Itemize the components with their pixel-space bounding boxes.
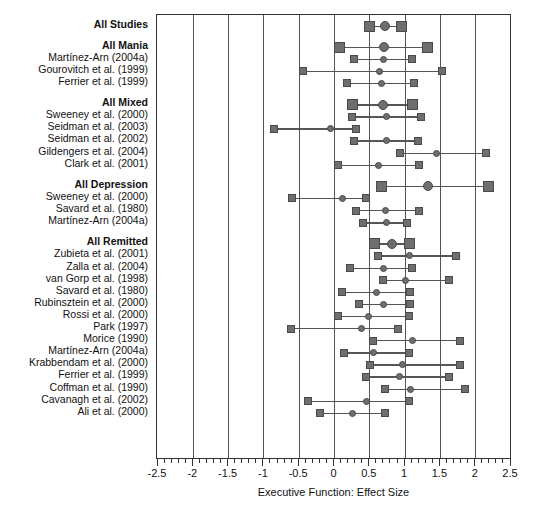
forest-row [157,135,510,147]
ci-lower-marker [288,194,296,202]
study-label: Rubinsztein et al. (2000) [34,297,148,308]
effect-size-marker [380,56,387,63]
study-label: Clark et al. (2001) [65,158,148,169]
axis-tick-label: -1.5 [218,467,237,479]
axis-tick-minor [488,459,489,463]
study-label: Zalla et al. (2004) [66,261,148,272]
axis-tick-minor [277,459,278,463]
forest-row [157,77,510,89]
forest-row [157,250,510,262]
ci-lower-marker [334,42,345,53]
axis-tick-minor [389,459,390,463]
ci-upper-marker [415,161,423,169]
ci-lower-marker [376,181,387,192]
study-label: Park (1997) [93,321,148,332]
study-label: Savard et al. (1980) [56,203,148,214]
effect-size-marker [379,42,389,52]
axis-tick-major [439,459,440,466]
group-label: All Studies [94,19,148,30]
axis-tick-minor [206,459,207,463]
axis-tick-label: -2.5 [148,467,167,479]
ci-upper-marker [445,373,453,381]
ci-lower-marker [316,409,324,417]
forest-row [157,371,510,383]
study-label: Ali et al. (2000) [77,406,148,417]
ci-upper-marker [408,55,416,63]
ci-upper-marker [452,252,460,260]
effect-size-marker [373,289,380,296]
forest-row [157,286,510,298]
axis-tick-minor [425,459,426,463]
ci-lower-marker [362,373,370,381]
ci-lower-marker [369,337,377,345]
ci-upper-marker [456,361,464,369]
axis-tick-major [474,459,475,466]
effect-size-marker [380,21,390,31]
confidence-interval-line [366,376,449,377]
study-label-column: All StudiesAll ManiaMartínez-Arn (2004a)… [0,0,152,470]
confidence-interval-line [274,128,355,129]
effect-size-marker [423,181,433,191]
ci-lower-marker [366,361,374,369]
axis-tick-major [510,459,511,466]
forest-row [157,274,510,286]
study-label: Rossi et al. (2000) [63,309,148,320]
ci-lower-marker [350,55,358,63]
study-label: Sweeney et al. (2000) [46,191,148,202]
effect-size-marker [327,125,334,132]
axis-tick-major [157,459,158,466]
forest-row [157,347,510,359]
x-axis: Executive Function: Effect Size -2.5-2-1… [156,459,511,519]
forest-row [157,159,510,171]
effect-size-marker [383,137,390,144]
confidence-interval-line [338,316,409,317]
axis-tick-minor [375,459,376,463]
forest-row [157,180,510,192]
ci-upper-marker [438,67,446,75]
axis-tick-minor [467,459,468,463]
axis-tick-minor [411,459,412,463]
axis-tick-minor [178,459,179,463]
axis-tick-label: 2 [472,467,478,479]
confidence-interval-line [400,153,486,154]
axis-tick-minor [453,459,454,463]
ci-upper-marker [394,325,402,333]
ci-upper-marker [381,409,389,417]
effect-size-marker [380,265,387,272]
study-label: Sweeney et al. (2000) [46,109,148,120]
study-label: Cavanagh et al. (2002) [41,394,148,405]
axis-tick-minor [354,459,355,463]
axis-tick-minor [248,459,249,463]
ci-upper-marker [422,42,433,53]
ci-upper-marker [405,312,413,320]
axis-tick-label: -1 [258,467,268,479]
study-label: Martínez-Arn (2004a) [48,52,148,63]
axis-tick-minor [269,459,270,463]
study-label: Ferrier et al. (1999) [58,76,148,87]
effect-size-marker [365,313,372,320]
axis-tick-minor [171,459,172,463]
effect-size-marker [407,386,414,393]
study-label: Gildengers et al. (2004) [38,146,148,157]
axis-tick-minor [319,459,320,463]
axis-tick-label: -2 [187,467,197,479]
axis-tick-minor [234,459,235,463]
group-label: All Remitted [87,236,148,247]
axis-tick-minor [326,459,327,463]
ci-upper-marker [396,21,407,32]
axis-tick-minor [255,459,256,463]
axis-tick-major [298,459,299,466]
forest-row [157,147,510,159]
effect-size-marker [406,252,413,259]
axis-tick-minor [164,459,165,463]
axis-tick-minor [418,459,419,463]
effect-size-marker [399,361,406,368]
confidence-interval-line [373,340,460,341]
forest-row [157,53,510,65]
effect-size-marker [380,301,387,308]
study-label: van Gorp et al. (1998) [46,273,148,284]
effect-size-marker [349,410,356,417]
effect-size-marker [409,337,416,344]
forest-row [157,262,510,274]
forest-row [157,310,510,322]
